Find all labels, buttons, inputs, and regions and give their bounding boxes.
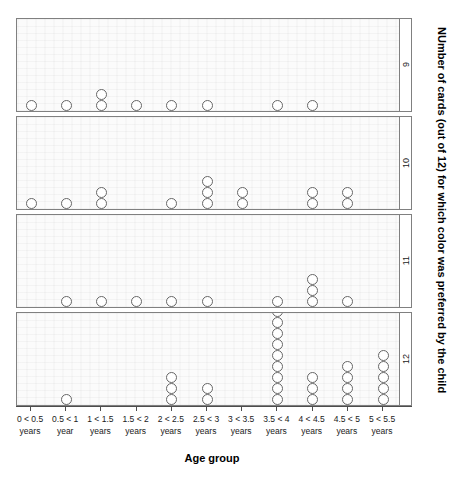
dot-column [306,372,320,405]
dot-column [94,187,108,209]
data-point-circle [237,187,248,198]
data-point-circle [342,361,353,372]
data-point-circle [96,296,107,307]
data-point-circle [307,394,318,405]
data-point-circle [307,100,318,111]
panel-plot-area-9 [16,18,400,112]
panel-row-11: 11 [16,214,412,308]
panel-row-12: 12 [16,312,412,406]
x-axis-tick [171,406,172,411]
y-axis-title-text: NUmber of cards (out of 12) for which co… [436,27,448,393]
x-axis-tick [276,406,277,411]
dot-column [165,100,179,111]
data-point-circle [202,394,213,405]
x-axis-tick [206,406,207,411]
panel-strip-11: 11 [400,214,412,308]
panel-strip-label-12: 12 [401,354,411,364]
data-point-circle [307,198,318,209]
x-axis-tick [65,406,66,411]
dot-column [235,187,249,209]
x-axis-tick [312,406,313,411]
panel-plot-area-12 [16,312,400,406]
data-point-circle [202,100,213,111]
dot-column [24,198,38,209]
dot-column [24,100,38,111]
x-axis-title: Age group [0,452,424,464]
panel-plot-area-11 [16,214,400,308]
data-point-circle [61,296,72,307]
data-point-circle [272,394,283,405]
dot-column [341,361,355,405]
x-axis-tick-label: 5 < 5.5years [359,414,405,437]
data-point-circle [272,361,283,372]
data-point-circle [61,198,72,209]
panel-strip-label-9: 9 [401,62,411,67]
data-point-circle [342,296,353,307]
data-point-circle [96,100,107,111]
dot-column [200,383,214,405]
dot-column [165,296,179,307]
data-point-circle [202,176,213,187]
data-point-circle [342,394,353,405]
dot-column [270,312,284,405]
data-point-circle [272,328,283,339]
data-point-circle [272,372,283,383]
dot-column [59,100,73,111]
data-point-circle [272,339,283,350]
data-point-circle [378,372,389,383]
data-point-circle [202,198,213,209]
dot-column [270,100,284,111]
data-point-circle [378,394,389,405]
x-axis-tick [136,406,137,411]
panel-strip-12: 12 [400,312,412,406]
dot-column [130,100,144,111]
data-point-circle [166,100,177,111]
data-point-circle [342,372,353,383]
data-point-circle [342,198,353,209]
data-point-circle [307,296,318,307]
x-axis-line [16,406,412,407]
dot-column [130,296,144,307]
dot-column [165,372,179,405]
dot-column [306,100,320,111]
data-point-circle [202,383,213,394]
data-point-circle [378,361,389,372]
data-point-circle [96,198,107,209]
panel-row-10: 10 [16,116,412,210]
x-axis-tick [30,406,31,411]
dot-plot-figure: 9 10 11 [0,0,454,480]
panel-stack: 9 10 11 [16,18,412,406]
dot-column [165,198,179,209]
dot-column [270,296,284,307]
x-axis-tick [347,406,348,411]
data-point-circle [26,100,37,111]
data-point-circle [307,274,318,285]
dot-column [341,187,355,209]
data-point-circle [131,296,142,307]
x-axis-tick-labels: 0 < 0.5years0.5 < 1year1 < 1.5years1.5 <… [16,414,412,448]
data-point-circle [272,350,283,361]
data-point-circle [237,198,248,209]
panel-strip-label-11: 11 [401,256,411,265]
panel-points-10 [17,117,399,209]
data-point-circle [307,372,318,383]
data-point-circle [131,100,142,111]
data-point-circle [272,100,283,111]
data-point-circle [378,350,389,361]
panel-strip-9: 9 [400,18,412,112]
data-point-circle [96,89,107,100]
data-point-circle [26,198,37,209]
data-point-circle [166,296,177,307]
x-axis [16,406,412,412]
dot-column [306,274,320,307]
data-point-circle [307,187,318,198]
x-axis-tick [382,406,383,411]
data-point-circle [378,383,389,394]
data-point-circle [272,383,283,394]
data-point-circle [307,383,318,394]
data-point-circle [202,187,213,198]
dot-column [94,296,108,307]
dot-column [200,296,214,307]
panel-plot-area-10 [16,116,400,210]
data-point-circle [61,100,72,111]
